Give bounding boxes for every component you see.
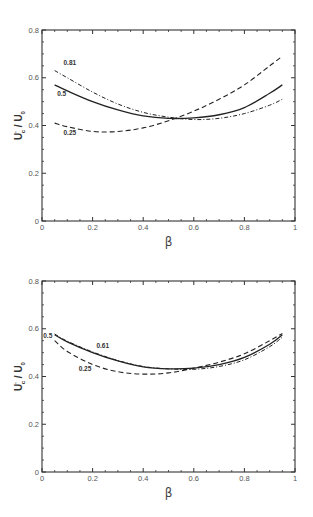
x-axis-title: β [165, 486, 173, 500]
plot-frame [42, 281, 295, 472]
x-tick-label: 0 [40, 474, 44, 483]
y-tick-label: 0.2 [29, 169, 39, 178]
x-tick-label: 0.2 [87, 474, 97, 483]
chart-top: 00.20.40.60.8100.20.40.60.80.810.50.25βU… [0, 0, 313, 260]
chart-bottom: 00.20.40.60.8100.20.40.60.80.50.610.25βU… [0, 251, 313, 517]
y-tick-label: 0.8 [29, 277, 39, 286]
series-0_25 [55, 56, 283, 132]
chart-bottom-svg: 00.20.40.60.8100.20.40.60.80.50.610.25βU… [0, 251, 313, 517]
x-axis-title: β [165, 235, 173, 249]
x-tick-label: 0.8 [239, 474, 249, 483]
x-tick-label: 0 [40, 223, 44, 232]
curve-label: 0.5 [43, 332, 52, 339]
svg-text:U'c / U0: U'c / U0 [13, 110, 26, 140]
y-tick-label: 0.2 [29, 420, 39, 429]
x-tick-label: 0.6 [189, 223, 199, 232]
curve-label: 0.81 [64, 59, 77, 66]
y-tick-label: 0.6 [29, 324, 39, 333]
curve-label: 0.25 [79, 365, 92, 372]
x-tick-label: 0.8 [239, 223, 249, 232]
y-tick-label: 0.6 [29, 73, 39, 82]
chart-top-svg: 00.20.40.60.8100.20.40.60.80.810.50.25βU… [0, 0, 313, 260]
x-tick-label: 1 [293, 223, 297, 232]
x-tick-label: 0.6 [189, 474, 199, 483]
x-tick-label: 0.4 [138, 474, 148, 483]
y-tick-label: 0 [35, 468, 39, 477]
series-0_81 [55, 71, 283, 120]
curve-label: 0.61 [96, 342, 109, 349]
svg-text:U'c / U0: U'c / U0 [13, 361, 26, 391]
y-tick-label: 0.8 [29, 26, 39, 35]
y-axis-title: U'c / U0 [13, 110, 26, 140]
y-axis-title: U'c / U0 [13, 361, 26, 391]
x-tick-label: 0.2 [87, 223, 97, 232]
x-tick-label: 0.4 [138, 223, 148, 232]
y-tick-label: 0.4 [29, 121, 39, 130]
curve-label: 0.5 [57, 90, 66, 97]
y-tick-label: 0.4 [29, 372, 39, 381]
x-tick-label: 1 [293, 474, 297, 483]
curve-label: 0.25 [64, 129, 77, 136]
plot-frame [42, 30, 295, 221]
y-tick-label: 0 [35, 217, 39, 226]
